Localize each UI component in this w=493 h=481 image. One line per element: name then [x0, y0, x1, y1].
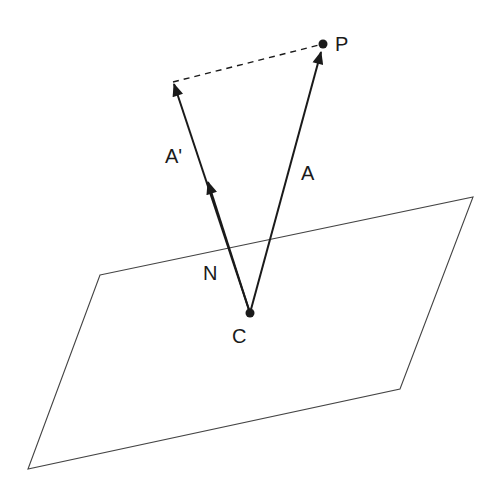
- point-p: [319, 40, 328, 49]
- label-n: N: [203, 262, 217, 284]
- plane: [28, 197, 473, 469]
- label-a-prime: A': [165, 145, 182, 167]
- projection-diagram: P A A' N C: [0, 0, 493, 481]
- point-c: [246, 309, 255, 318]
- label-a: A: [301, 162, 315, 184]
- label-p: P: [335, 33, 348, 55]
- dashed-projection-line: [173, 44, 323, 82]
- label-c: C: [232, 325, 246, 347]
- vector-n: [208, 182, 250, 313]
